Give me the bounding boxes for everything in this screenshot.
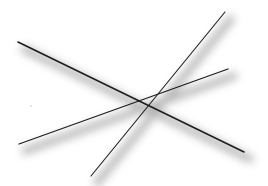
- intersecting-lines-diagram: [0, 0, 268, 186]
- specks-group: [30, 105, 31, 106]
- speck-0: [30, 105, 31, 106]
